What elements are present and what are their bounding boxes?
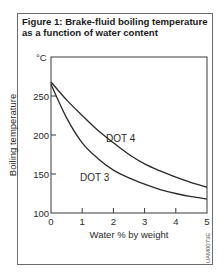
- x-tick-label: 4: [173, 216, 178, 227]
- y-axis-label: Boiling temperature: [7, 94, 18, 176]
- figure-code: UAM0073E: [205, 233, 211, 264]
- x-tick-label: 0: [48, 216, 53, 227]
- x-tick-label: 1: [80, 216, 85, 227]
- chart: 100150200250 012345 °C Boiling temperatu…: [0, 0, 224, 280]
- x-axis-ticks: 012345: [48, 208, 209, 227]
- x-axis-label: Water % by weight: [90, 229, 169, 240]
- x-tick-label: 2: [111, 216, 116, 227]
- series-label-dot3: DOT 3: [80, 172, 110, 183]
- y-tick-label: 250: [33, 91, 49, 102]
- x-tick-label: 3: [142, 216, 147, 227]
- y-tick-label: 150: [33, 169, 49, 180]
- y-tick-label: 100: [33, 208, 49, 219]
- series-label-dot4: DOT 4: [106, 133, 136, 144]
- x-tick-label: 5: [204, 216, 209, 227]
- y-axis-ticks: 100150200250: [33, 91, 56, 219]
- y-unit-label: °C: [36, 52, 47, 63]
- y-tick-label: 200: [33, 130, 49, 141]
